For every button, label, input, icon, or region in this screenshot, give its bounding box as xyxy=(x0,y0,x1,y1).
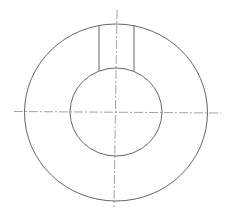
washer-drawing xyxy=(0,0,233,217)
